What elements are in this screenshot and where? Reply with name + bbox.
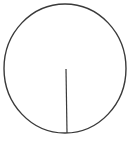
circle-diagram bbox=[0, 0, 131, 143]
radius-line bbox=[66, 69, 67, 133]
circle-outline bbox=[4, 4, 126, 133]
